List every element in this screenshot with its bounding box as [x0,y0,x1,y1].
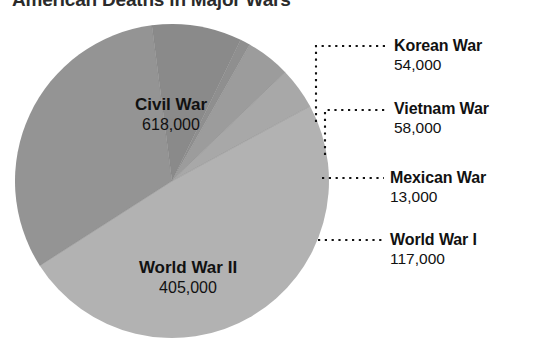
callout-mexican-war: Mexican War 13,000 [390,168,486,206]
callout-vietnam-war-value: 58,000 [394,118,489,137]
callout-vietnam-war: Vietnam War 58,000 [394,99,489,137]
callout-vietnam-war-name: Vietnam War [394,99,489,118]
pie-label-world-war-ii-name: World War II [108,258,268,278]
callout-world-war-i-value: 117,000 [390,249,477,268]
pie-label-civil-war-value: 618,000 [96,115,246,134]
callout-korean-war: Korean War 54,000 [394,36,482,74]
callout-mexican-war-name: Mexican War [390,168,486,187]
callout-mexican-war-value: 13,000 [390,187,486,206]
callout-world-war-i-name: World War I [390,230,477,249]
pie-label-world-war-ii: World War II 405,000 [108,258,268,297]
pie-label-world-war-ii-value: 405,000 [108,278,268,297]
pie-label-civil-war-name: Civil War [96,95,246,115]
callout-korean-war-value: 54,000 [394,55,482,74]
pie-label-civil-war: Civil War 618,000 [96,95,246,134]
callout-world-war-i: World War I 117,000 [390,230,477,268]
callout-korean-war-name: Korean War [394,36,482,55]
chart-canvas: American Deaths in Major Wars Civil War … [0,0,538,343]
